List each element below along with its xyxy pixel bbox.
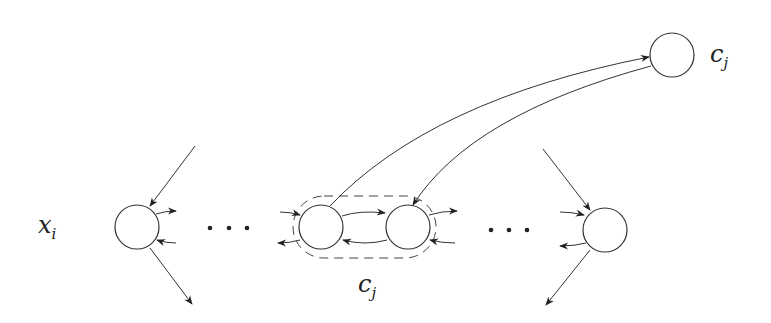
clause-node-c-j [650, 33, 694, 77]
clause-gadget [278, 196, 457, 258]
right-variable-node [543, 149, 627, 305]
variable-node-x-i [115, 146, 195, 304]
label-x-i: xi [38, 211, 57, 243]
edges-to-clause-node [330, 57, 651, 206]
ellipsis-right [489, 228, 530, 233]
label-gadget-c-j: cj [358, 270, 376, 302]
ellipsis-left [208, 226, 250, 231]
label-clause-c-j: cj [710, 40, 728, 72]
diagram-canvas: xi cj cj [0, 0, 771, 323]
